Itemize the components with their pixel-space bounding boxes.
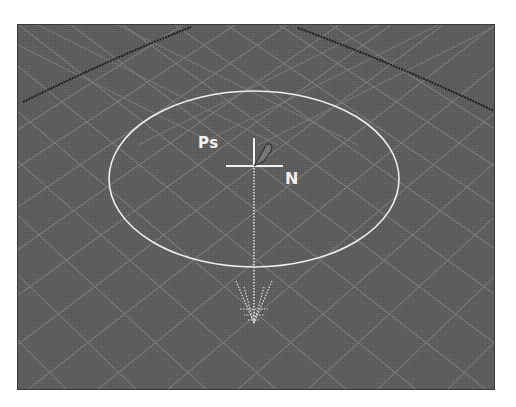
viewport-canvas[interactable]: [18, 25, 495, 390]
point-label: Ps: [198, 136, 219, 151]
normal-label: N: [285, 171, 299, 186]
3d-viewport[interactable]: Ps N: [17, 24, 495, 390]
